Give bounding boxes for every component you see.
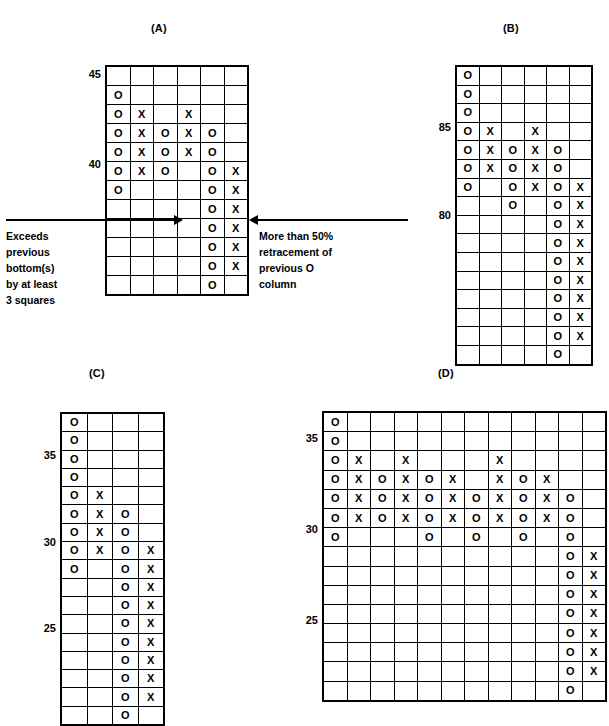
pnf-cell-empty <box>441 624 465 643</box>
pnf-cell-empty <box>106 200 130 219</box>
pnf-cell-empty <box>371 528 395 547</box>
pnf-cell-empty <box>512 432 536 451</box>
pnf-cell-empty <box>87 615 113 633</box>
pnf-cell-x: X <box>224 257 248 276</box>
pnf-cell-empty <box>582 412 606 432</box>
pnf-cell-empty <box>502 215 525 234</box>
pnf-cell-empty <box>61 596 87 614</box>
pnf-cell-o: O <box>106 181 130 200</box>
pnf-cell-empty <box>323 547 347 566</box>
pnf-cell-x: X <box>479 122 502 141</box>
pnf-cell-o: O <box>201 276 225 296</box>
pnf-cell-empty <box>371 604 395 623</box>
pnf-cell-o: O <box>61 542 87 560</box>
pnf-grid-a: OOXXOXOXOOXOXOOXOOXOOXOXOXOXOXO <box>105 65 249 296</box>
pnf-cell-empty <box>154 181 178 200</box>
pnf-cell-empty <box>524 85 547 104</box>
pnf-row: O <box>106 276 248 296</box>
pnf-cell-x: X <box>224 181 248 200</box>
pnf-cell-x: X <box>347 451 371 470</box>
pnf-cell-o: O <box>113 633 139 651</box>
pnf-cell-x: X <box>479 141 502 160</box>
pnf-cell-empty <box>502 85 525 104</box>
pnf-cell-x: X <box>138 596 164 614</box>
pnf-cell-o: O <box>456 66 479 85</box>
pnf-cell-o: O <box>502 178 525 197</box>
pnf-cell-empty <box>154 86 178 105</box>
pnf-cell-empty <box>394 585 418 604</box>
pnf-cell-x: X <box>224 238 248 257</box>
scale-label-c-35: 35 <box>34 449 56 461</box>
pnf-cell-empty <box>323 604 347 623</box>
scale-label-a-40: 40 <box>79 158 101 170</box>
pnf-row: OX <box>61 596 164 614</box>
pnf-cell-x: X <box>582 643 606 662</box>
pnf-cell-empty <box>524 215 547 234</box>
pnf-cell-empty <box>559 451 583 470</box>
pnf-row: OX <box>106 238 248 257</box>
pnf-cell-empty <box>479 197 502 216</box>
scale-label-d-30: 30 <box>296 523 318 535</box>
pnf-cell-x: X <box>87 542 113 560</box>
pnf-cell-o: O <box>559 624 583 643</box>
pnf-cell-empty <box>441 528 465 547</box>
pnf-cell-empty <box>418 566 442 585</box>
pnf-cell-o: O <box>201 162 225 181</box>
pnf-cell-empty <box>465 585 489 604</box>
pnf-cell-empty <box>418 547 442 566</box>
pnf-cell-empty <box>488 566 512 585</box>
pnf-cell-empty <box>441 451 465 470</box>
pnf-cell-empty <box>524 345 547 364</box>
pnf-row: OXOXOXOXOXO <box>323 508 606 527</box>
pnf-row: OX <box>456 215 592 234</box>
pnf-cell-o: O <box>113 523 139 541</box>
left-callout-line <box>6 219 174 221</box>
pnf-cell-empty <box>61 651 87 669</box>
pnf-cell-x: X <box>535 489 559 508</box>
pnf-cell-empty <box>177 181 201 200</box>
pnf-cell-empty <box>456 215 479 234</box>
pnf-cell-empty <box>569 104 592 123</box>
pnf-cell-empty <box>371 412 395 432</box>
pnf-cell-empty <box>394 662 418 681</box>
pnf-cell-empty <box>154 257 178 276</box>
pnf-cell-o: O <box>201 238 225 257</box>
pnf-cell-empty <box>87 413 113 432</box>
pnf-row: OX <box>61 633 164 651</box>
pnf-cell-empty <box>87 560 113 578</box>
pnf-cell-o: O <box>201 200 225 219</box>
pnf-cell-empty <box>61 706 87 725</box>
pnf-row: OX <box>323 547 606 566</box>
pnf-cell-o: O <box>512 528 536 547</box>
pnf-cell-empty <box>479 85 502 104</box>
pnf-row: O <box>61 468 164 486</box>
pnf-cell-empty <box>456 327 479 346</box>
pnf-cell-empty <box>371 585 395 604</box>
pnf-cell-x: X <box>138 578 164 596</box>
pnf-cell-o: O <box>502 141 525 160</box>
pnf-cell-empty <box>371 643 395 662</box>
pnf-cell-o: O <box>371 470 395 489</box>
pnf-row: OX <box>323 643 606 662</box>
pnf-row: OX <box>323 624 606 643</box>
pnf-cell-empty <box>582 681 606 701</box>
pnf-cell-empty <box>61 615 87 633</box>
pnf-cell-empty <box>394 643 418 662</box>
pnf-cell-o: O <box>113 560 139 578</box>
pnf-cell-o: O <box>502 197 525 216</box>
panel-c-title: (C) <box>89 367 105 379</box>
pnf-cell-empty <box>418 585 442 604</box>
pnf-cell-empty <box>488 681 512 701</box>
pnf-row: OX <box>323 585 606 604</box>
pnf-cell-empty <box>224 143 248 162</box>
pnf-cell-empty <box>535 681 559 701</box>
pnf-cell-empty <box>394 432 418 451</box>
pnf-cell-empty <box>61 670 87 688</box>
pnf-cell-empty <box>479 271 502 290</box>
pnf-cell-empty <box>87 450 113 468</box>
pnf-cell-empty <box>138 505 164 523</box>
pnf-row: OOXOX <box>456 178 592 197</box>
pnf-row <box>106 66 248 86</box>
pnf-cell-x: X <box>394 508 418 527</box>
pnf-cell-empty <box>465 470 489 489</box>
